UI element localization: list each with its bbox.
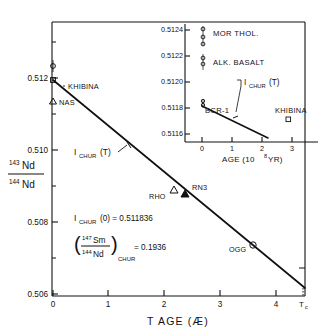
- annot2-den: Nd: [93, 249, 104, 259]
- square-open-marker: [286, 117, 291, 122]
- ichur-sub: CHUR: [79, 153, 97, 159]
- data-label-rn3: RN3: [192, 183, 207, 192]
- annotation-block: I CHUR (0) = 0.511836 ( 147 Sm 144 Nd ) …: [74, 213, 167, 262]
- ichur-arg: (T): [100, 147, 111, 157]
- inset-ichur-t-annotation: I CHUR (T): [233, 78, 280, 118]
- inset-y-ticklabel: 0.5118: [162, 103, 183, 112]
- inset-group-alk-basalt: ALK. BASALT: [201, 54, 264, 70]
- x-ticklabel: 4: [274, 300, 279, 309]
- inset-chart: 0.5124 0.5122 0.5120 0.5118 0.5116 0 1 2…: [161, 24, 318, 164]
- data-label-khibina: KHIBINA: [68, 82, 99, 91]
- x-ticklabel: 0: [51, 300, 56, 309]
- y-title-nd-top: Nd: [22, 160, 35, 171]
- inset-y-ticklabel: 0.5124: [161, 25, 183, 34]
- inset-xlabel-main: AGE (10: [222, 155, 255, 164]
- figure-root: 0.512 0.510 0.508 0.506 0 1 2 3 4 T AGE …: [0, 0, 329, 332]
- inset-x-axis-title: AGE (10 8 YR): [222, 153, 283, 164]
- tick-on-line: [233, 116, 238, 118]
- inset-x-ticks: [202, 137, 292, 142]
- triangle-open-marker: [50, 98, 57, 104]
- inset-y-ticks: [185, 30, 190, 134]
- annot2-sub: CHUR: [118, 256, 136, 262]
- svg-text:T AGE (Æ): T AGE (Æ): [147, 315, 209, 327]
- data-label-nas: NAS: [59, 98, 75, 107]
- inset-ichur-i: I: [244, 78, 246, 87]
- main-ichur-t-annotation: I CHUR (T): [74, 142, 131, 159]
- data-label-ogg: OGG: [229, 245, 247, 254]
- x-ticklabel: 2: [162, 300, 167, 309]
- inset-ichur-sub: CHUR: [249, 83, 266, 89]
- inset-y-ticklabel: 0.5122: [161, 51, 183, 60]
- chart-svg: 0.512 0.510 0.508 0.506 0 1 2 3 4 T AGE …: [0, 0, 329, 332]
- inset-label-alk-basalt: ALK. BASALT: [213, 58, 265, 67]
- annot2-rest: = 0.1936: [134, 243, 167, 252]
- y-ticklabel: 0.512: [28, 74, 49, 83]
- y-title-sup-143: 143: [9, 159, 20, 166]
- inset-y-ticklabel: 0.5120: [161, 77, 183, 86]
- inset-group-bcr-1: BCR-1: [201, 99, 229, 115]
- inset-xlabel-tail: YR): [268, 155, 283, 164]
- annot1-sub: CHUR: [79, 219, 97, 225]
- tc-label-main: T: [299, 300, 304, 309]
- main-x-axis-title: T AGE (Æ): [147, 315, 209, 327]
- data-point-rn3: RN3: [181, 183, 207, 197]
- annot2-num-sup: 147: [82, 235, 92, 241]
- inset-group-khibina: KHIBINA: [275, 106, 307, 122]
- annot1-i: I: [74, 213, 76, 223]
- y-ticklabel: 0.508: [28, 218, 49, 227]
- data-label-rho: RHO: [149, 192, 166, 201]
- inset-x-ticklabels: 0 1 2 3: [200, 144, 294, 153]
- data-point-unlabeled: [51, 60, 56, 72]
- tc-label-sub: c: [305, 304, 308, 310]
- x-ticklabel: 1: [106, 300, 111, 309]
- main-y-axis-title: 143 Nd 144 Nd: [8, 159, 44, 190]
- leader-line: [118, 145, 127, 152]
- data-point-nas: NAS: [50, 98, 75, 107]
- ichur-i: I: [74, 147, 76, 157]
- main-x-ticklabels: 0 1 2 3 4: [51, 300, 279, 309]
- leader-bracket: [237, 80, 241, 86]
- inset-x-ticklabel: 2: [260, 144, 264, 153]
- annot2-den-sup: 144: [82, 249, 92, 255]
- data-point-rho: RHO: [149, 186, 178, 201]
- leader-line: [236, 86, 241, 112]
- y-title-nd-bottom: Nd: [22, 179, 35, 190]
- inset-x-ticklabel: 1: [230, 144, 234, 153]
- inset-label-mor-thol: MOR THOL.: [213, 29, 259, 38]
- inset-y-ticklabels: 0.5124 0.5122 0.5120 0.5118 0.5116: [161, 25, 183, 138]
- inset-xlabel-sup: 8: [264, 153, 267, 159]
- inset-group-mor-thol: MOR THOL.: [201, 26, 259, 46]
- main-x-ticks: [53, 290, 276, 296]
- leader-dot: [63, 85, 65, 87]
- inset-label-bcr-1: BCR-1: [205, 106, 229, 115]
- inset-y-ticklabel: 0.5116: [162, 129, 183, 138]
- tc-label: T c: [299, 300, 308, 310]
- inset-x-ticklabel: 3: [290, 144, 294, 153]
- annot2-num: Sm: [93, 235, 106, 245]
- paren-right: ): [111, 233, 118, 255]
- inset-label-khibina: KHIBINA: [275, 106, 307, 115]
- annot1-rest: (0) = 0.511836: [100, 214, 153, 223]
- paren-left: (: [74, 233, 81, 255]
- inset-x-ticklabel: 0: [200, 144, 204, 153]
- y-ticklabel: 0.506: [28, 290, 49, 299]
- x-ticklabel: 3: [218, 300, 223, 309]
- y-ticklabel: 0.510: [28, 146, 49, 155]
- inset-ichur-arg: (T): [269, 78, 280, 87]
- y-title-sup-144: 144: [9, 178, 20, 185]
- triangle-open-marker: [170, 186, 178, 193]
